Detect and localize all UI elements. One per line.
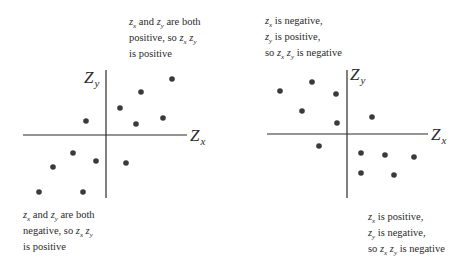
data-point xyxy=(133,121,139,127)
data-point xyxy=(169,76,175,82)
caption-line: zy is negative, xyxy=(368,227,445,243)
data-point xyxy=(358,170,364,176)
caption-line: zx is positive, xyxy=(368,211,445,227)
y-axis-label: Zy xyxy=(350,65,365,86)
left-caption-bottom: zx and zy are bothnegative, so zx zyis p… xyxy=(23,209,95,252)
data-point xyxy=(36,189,42,195)
data-point xyxy=(309,79,315,85)
data-point xyxy=(80,189,86,195)
caption-line: so zx zy is negative xyxy=(265,47,342,63)
data-point xyxy=(334,120,340,126)
data-point xyxy=(277,88,283,94)
right-scatter-plot: ZyZx xyxy=(267,65,446,198)
caption-line: is positive xyxy=(23,241,95,252)
x-axis-label: Zx xyxy=(431,125,446,146)
caption-line: positive, so zx zy xyxy=(129,32,201,48)
data-point xyxy=(123,160,129,166)
caption-line: zx and zy are both xyxy=(23,209,95,225)
data-point xyxy=(411,154,417,160)
right-caption-top: zx is negative,zy is positive,so zx zy i… xyxy=(265,15,342,63)
data-point xyxy=(382,152,388,158)
data-point xyxy=(333,91,339,97)
data-point xyxy=(83,118,89,124)
data-point xyxy=(391,172,397,178)
caption-line: so zx zy is negative xyxy=(368,243,445,259)
data-point xyxy=(160,115,166,121)
caption-line: is positive xyxy=(129,48,201,59)
x-axis-label: Zx xyxy=(190,126,205,147)
caption-line: zx and zy are both xyxy=(129,16,201,32)
data-point xyxy=(117,105,123,111)
caption-line: zy is positive, xyxy=(265,31,342,47)
y-axis-label: Zy xyxy=(84,68,99,89)
data-point xyxy=(358,150,364,156)
data-point xyxy=(369,114,375,120)
data-point xyxy=(316,143,322,149)
data-point xyxy=(70,150,76,156)
caption-line: negative, so zx zy xyxy=(23,225,95,241)
data-point xyxy=(50,164,56,170)
right-caption-bottom: zx is positive,zy is negative,so zx zy i… xyxy=(368,211,445,259)
data-point xyxy=(299,108,305,114)
data-point xyxy=(138,89,144,95)
left-caption-top: zx and zy are bothpositive, so zx zyis p… xyxy=(129,16,201,59)
left-scatter-plot: ZyZx xyxy=(23,68,205,198)
data-point xyxy=(93,158,99,164)
caption-line: zx is negative, xyxy=(265,15,342,31)
